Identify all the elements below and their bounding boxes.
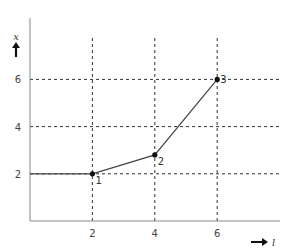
point-label: 2 — [158, 156, 164, 167]
x-tick-label: 2 — [89, 228, 95, 239]
point-label: 1 — [95, 175, 101, 186]
x-tick-label: 6 — [214, 228, 220, 239]
data-point — [152, 152, 157, 157]
y-axis-arrow-icon — [12, 42, 20, 57]
y-tick-label: 6 — [15, 74, 21, 85]
y-axis-label: x — [13, 31, 19, 42]
point-label: 3 — [220, 74, 226, 85]
axis-labels: x l — [12, 31, 275, 248]
x-axis-arrow-icon — [251, 238, 268, 246]
grid — [30, 38, 280, 221]
y-tick-label: 4 — [15, 122, 21, 133]
series-line — [30, 79, 217, 173]
tick-labels: 246246 — [15, 74, 221, 239]
y-tick-label: 2 — [15, 169, 21, 180]
series: 123 — [30, 74, 227, 185]
chart: 246246 123 x l — [0, 0, 289, 249]
data-point — [215, 77, 220, 82]
data-point — [90, 171, 95, 176]
x-axis-label: l — [272, 237, 275, 248]
x-tick-label: 4 — [152, 228, 158, 239]
